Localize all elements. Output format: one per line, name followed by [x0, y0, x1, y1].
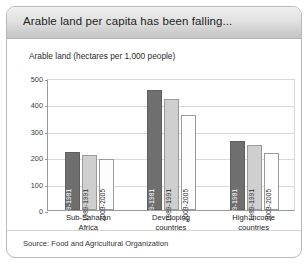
- bar-group: 1979-19811989-19912003-2005: [131, 80, 214, 210]
- x-axis-category-line: High-income: [212, 213, 295, 223]
- bar[interactable]: 1979-1981: [147, 90, 162, 210]
- x-axis-categories: Sub-SaharanAfricaDevelopingcountriesHigh…: [47, 213, 295, 241]
- bar[interactable]: 1979-1981: [230, 141, 245, 210]
- y-axis-tick-label: 0: [17, 207, 43, 216]
- plot-area: 1979-19811989-19912003-20051979-19811989…: [47, 79, 295, 211]
- y-axis-tick-label: 400: [17, 101, 43, 110]
- footer-divider: [7, 230, 301, 231]
- chart-card: Arable land per capita has been falling.…: [6, 6, 302, 258]
- bar[interactable]: 1989-1991: [164, 99, 179, 210]
- card-header: Arable land per capita has been falling.…: [7, 7, 301, 39]
- x-axis-category-line: Developing: [130, 213, 213, 223]
- x-axis-category-line: Africa: [47, 223, 130, 233]
- y-axis-tick-label: 500: [17, 75, 43, 84]
- y-axis-tick-label: 300: [17, 127, 43, 136]
- source-note: Source: Food and Agricultural Organizati…: [23, 239, 168, 248]
- bar[interactable]: 2003-2005: [264, 153, 279, 210]
- bar[interactable]: 1979-1981: [65, 152, 80, 210]
- bar[interactable]: 2003-2005: [181, 115, 196, 210]
- bar-group: 1979-19811989-19912003-2005: [48, 80, 131, 210]
- x-axis-category-line: Sub-Saharan: [47, 213, 130, 223]
- x-axis-category-line: countries: [212, 223, 295, 233]
- bar[interactable]: 1989-1991: [82, 155, 97, 210]
- chart-screenshot: Arable land per capita has been falling.…: [0, 0, 308, 268]
- page-title: Arable land per capita has been falling.…: [23, 15, 232, 27]
- chart-subtitle: Arable land (hectares per 1,000 people): [29, 51, 175, 61]
- bar[interactable]: 1989-1991: [247, 145, 262, 210]
- y-axis-tick-label: 100: [17, 180, 43, 189]
- bar[interactable]: 2003-2005: [99, 159, 114, 210]
- bar-group: 1979-19811989-19912003-2005: [213, 80, 296, 210]
- y-axis-tick-label: 200: [17, 154, 43, 163]
- x-axis-category-line: countries: [130, 223, 213, 233]
